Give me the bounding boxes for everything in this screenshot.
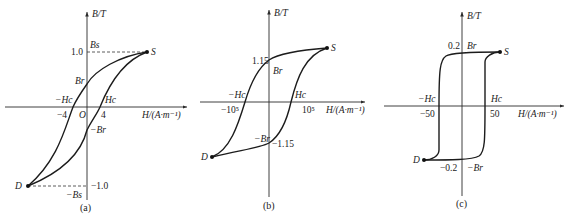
point-s (145, 50, 149, 54)
x-axis-label: H/(A·m⁻¹) (141, 110, 181, 121)
y-axis-label: B/T (92, 9, 106, 19)
neg-br-label: −Br (90, 125, 106, 135)
y-tick-bottom: −0.2 (440, 163, 457, 173)
y-axis-label: B/T (467, 11, 481, 21)
panel-a: B/T Bs 1.0 S Br −Hc Hc −4 O 4 H/(A·m⁻¹) … (5, 9, 187, 214)
hc-label: Hc (490, 94, 503, 104)
x-axis-label: H/(A·m⁻¹) (517, 109, 557, 120)
d-label: D (412, 155, 420, 165)
point-s (325, 46, 329, 50)
neg-br-label: −Br (467, 163, 483, 173)
x-tick-left: −10⁵ (221, 105, 239, 115)
caption-b: (b) (263, 200, 275, 212)
y-tick-top: 1.15 (252, 56, 269, 66)
neg-bs-label: −Bs (66, 190, 82, 200)
d-label: D (200, 152, 208, 162)
x-tick-left: −4 (57, 110, 67, 120)
d-label: D (14, 181, 22, 191)
hysteresis-figure: B/T Bs 1.0 S Br −Hc Hc −4 O 4 H/(A·m⁻¹) … (0, 0, 571, 219)
s-label: S (331, 43, 336, 53)
neg-br-label: −Br (254, 134, 270, 144)
caption-c: (c) (456, 198, 467, 210)
descending-branch (28, 52, 147, 186)
x-tick-right: 4 (101, 110, 106, 120)
hc-label: Hc (104, 95, 117, 105)
neg-hc-label: −Hc (418, 94, 436, 104)
point-d (210, 155, 214, 159)
y-tick-top: 0.2 (448, 41, 460, 51)
y-tick-bottom: −1.0 (91, 181, 108, 191)
caption-a: (a) (80, 202, 91, 214)
panel-c: B/T 0.2 Br S −Hc Hc −50 50 H/(A·m⁻¹) D −… (384, 11, 564, 210)
br-label: Br (467, 41, 477, 51)
y-tick-top: 1.0 (71, 47, 83, 57)
x-axis-label: H/(A·m⁻¹) (325, 105, 365, 116)
point-d (422, 158, 426, 162)
x-tick-right: 50 (490, 109, 500, 119)
hc-label: Hc (294, 90, 307, 100)
s-label: S (151, 47, 156, 57)
y-axis-label: B/T (274, 8, 288, 18)
y-tick-bottom: −1.15 (272, 139, 294, 149)
br-label: Br (273, 66, 283, 76)
origin-label: O (79, 110, 86, 120)
s-label: S (504, 47, 509, 57)
x-tick-left: −50 (420, 109, 435, 119)
x-tick-right: 10⁵ (302, 105, 315, 115)
neg-hc-label: −Hc (55, 95, 73, 105)
bs-label: Bs (90, 40, 100, 50)
neg-hc-label: −Hc (228, 90, 246, 100)
point-s (498, 50, 502, 54)
panel-b: B/T S 1.15 Br −Hc Hc −10⁵ 10⁵ H/(A·m⁻¹) … (200, 8, 365, 212)
point-d (26, 184, 30, 188)
br-label: Br (75, 76, 85, 86)
